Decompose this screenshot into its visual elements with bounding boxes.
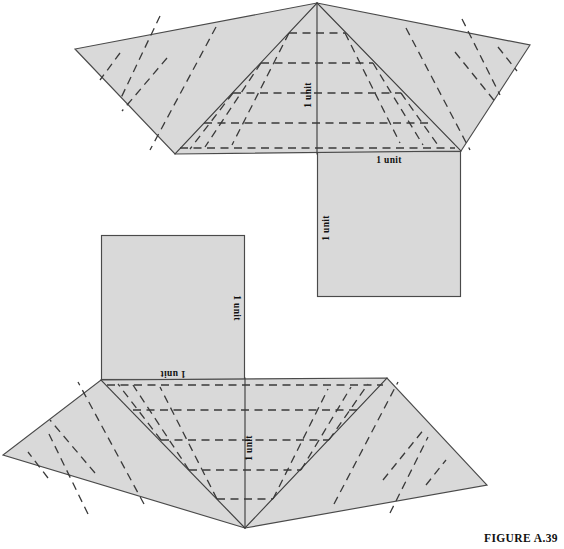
lower-square-face [102, 236, 245, 380]
upper-square-left-label: 1 unit [321, 215, 331, 241]
figure-caption: FIGURE A.39 [484, 532, 558, 544]
figure-drawing-canvas: 1 unit 1 unit 1 unit [0, 0, 564, 549]
upper-square-top-label: 1 unit [376, 155, 402, 165]
upper-fan-face [75, 3, 530, 154]
lower-square-bottom-label: 1 unit [160, 369, 186, 379]
lower-fan-height-label: 1 unit [244, 435, 254, 461]
upper-fan-height-label: 1 unit [303, 82, 313, 108]
upper-square-face [318, 152, 461, 297]
lower-square-right-label: 1 unit [232, 295, 242, 321]
